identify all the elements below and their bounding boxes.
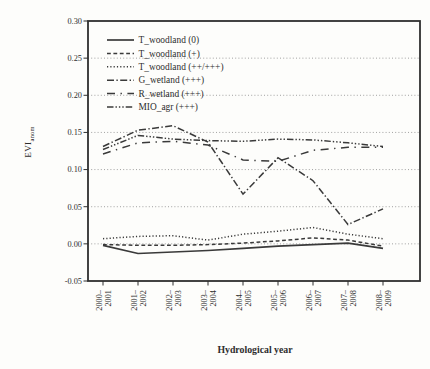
y-tick-label: 0.10 — [67, 165, 82, 174]
x-tick-label: 2006–2007 — [305, 289, 323, 311]
legend-label: MIO_agr (+++) — [139, 102, 198, 113]
series-line-r-wetland — [103, 141, 383, 161]
series-line-g-wetland — [103, 126, 383, 225]
legend-label: T_woodland (+) — [139, 49, 200, 60]
x-tick-label: 2000–2001 — [95, 289, 113, 311]
y-tick-label: 0.30 — [67, 17, 82, 26]
legend-label: T_woodland (0) — [139, 35, 200, 46]
y-tick-label: 0.20 — [67, 91, 82, 100]
x-tick-label: 2007–2008 — [340, 289, 358, 311]
y-tick-label: 0.00 — [67, 240, 82, 249]
legend-label: R_wetland (+++) — [139, 89, 204, 100]
y-axis-title-subscript: anom — [28, 126, 35, 141]
x-tick-label: 2002–2003 — [165, 289, 183, 311]
series-line-t-woodland — [103, 228, 383, 241]
plot-frame — [88, 21, 420, 281]
x-tick-label: 2003–2004 — [200, 289, 218, 311]
x-tick-label: 2005–2006 — [270, 289, 288, 311]
y-axis-title: EVIanom — [23, 107, 35, 177]
y-tick-label: 0.05 — [67, 203, 82, 212]
line-chart-figure: 0.300.250.200.150.100.050.00-0.052000–20… — [0, 0, 430, 369]
legend-label: T_woodland (++/+++) — [139, 62, 224, 73]
x-axis-title: Hydrological year — [90, 344, 420, 355]
legend-label: G_wetland (+++) — [139, 75, 205, 86]
y-tick-label: 0.15 — [67, 128, 82, 137]
series-line-t-woodland — [103, 238, 383, 246]
x-tick-label: 2008–2009 — [375, 289, 393, 311]
y-tick-label: -0.05 — [65, 277, 82, 286]
x-tick-label: 2001–2002 — [130, 289, 148, 311]
x-tick-label: 2004–2005 — [235, 289, 253, 311]
chart-canvas: 0.300.250.200.150.100.050.00-0.052000–20… — [0, 0, 430, 369]
y-tick-label: 0.25 — [67, 54, 82, 63]
